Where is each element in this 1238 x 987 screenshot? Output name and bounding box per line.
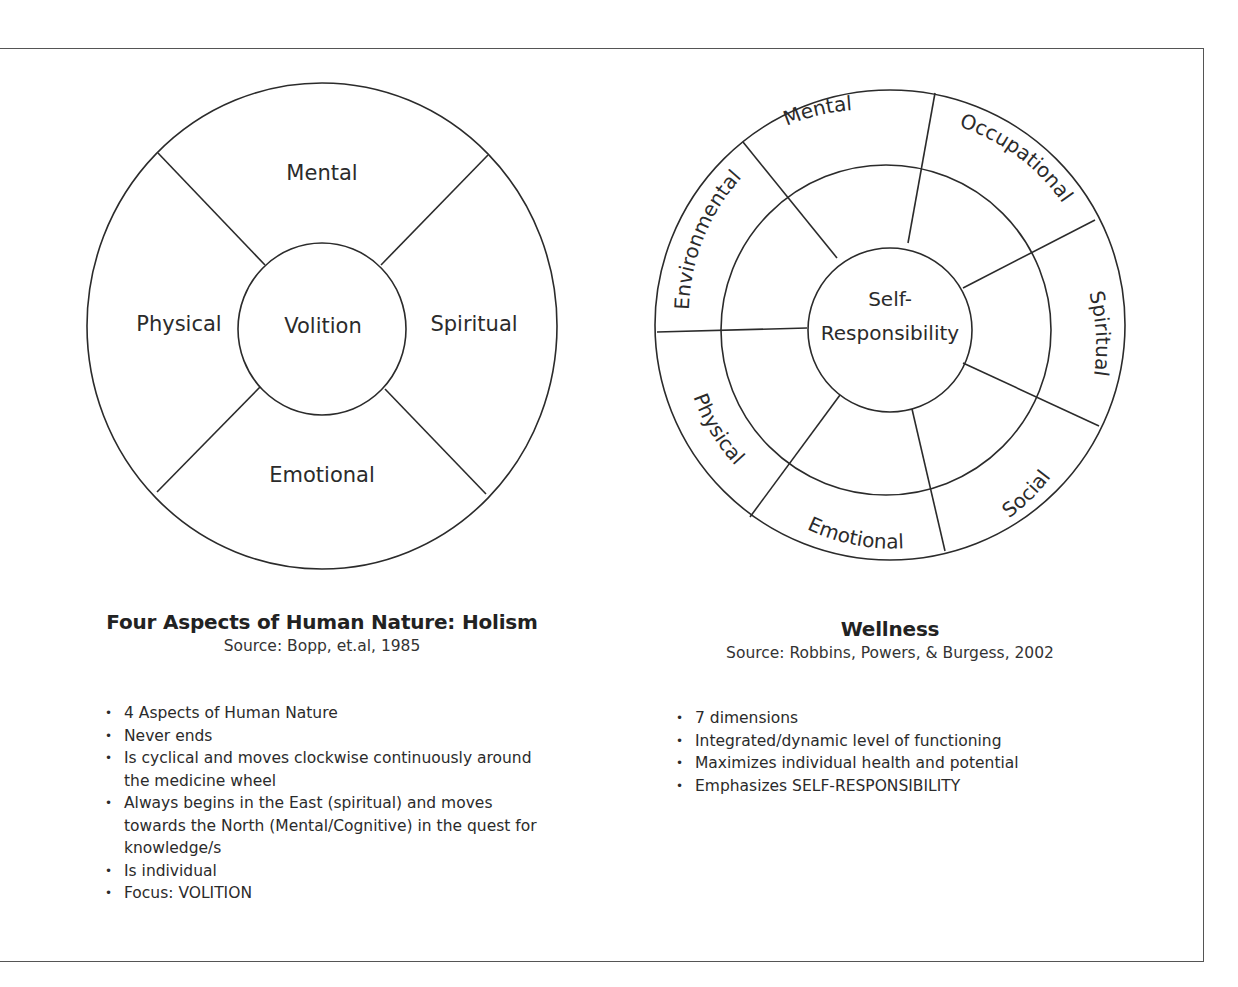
wellness-dimension-environmental: Environmental [670,165,746,310]
wellness-spoke-occupational-spiritual [963,220,1095,288]
wellness-bullet: 7 dimensions [671,707,1131,730]
holism-bullet: Is cyclical and moves clockwise continuo… [100,747,550,792]
wellness-center-line1: Self- [868,287,912,311]
holism-center-volition: Volition [284,314,361,338]
holism-bullet: Always begins in the East (spiritual) an… [100,792,550,860]
wellness-spoke-physical-environmental [657,328,807,332]
wellness-bullet-list: 7 dimensions Integrated/dynamic level of… [671,707,1131,797]
wellness-bullet: Integrated/dynamic level of functioning [671,730,1131,753]
wellness-dimension-physical: Physical [689,390,750,469]
holism-bullet: Never ends [100,725,550,748]
holism-segment-emotional: Emotional [269,463,375,487]
holism-spoke-se [385,389,486,494]
wellness-source: Source: Robbins, Powers, & Burgess, 2002 [640,644,1140,662]
holism-segment-spiritual: Spiritual [430,312,517,336]
holism-segment-physical: Physical [136,312,221,336]
wellness-caption: Wellness Source: Robbins, Powers, & Burg… [640,617,1140,662]
wellness-spoke-social-emotional [912,409,945,551]
holism-spoke-sw [157,387,260,492]
holism-title: Four Aspects of Human Nature: Holism [72,610,572,634]
holism-segment-mental: Mental [286,161,357,185]
wellness-center-line2: Responsibility [821,321,960,345]
wellness-spoke-emotional-physical [750,395,840,517]
wellness-bullet: Maximizes individual health and potentia… [671,752,1131,775]
wellness-dimension-emotional: Emotional [804,512,904,554]
wellness-dimension-mental: Mental [780,91,853,130]
wellness-spoke-spiritual-social [963,363,1099,426]
holism-source: Source: Bopp, et.al, 1985 [72,637,572,655]
holism-bullet: 4 Aspects of Human Nature [100,702,550,725]
holism-spoke-ne [381,155,488,265]
wellness-title: Wellness [640,617,1140,641]
wellness-spoke-mental-occupational [908,93,935,243]
holism-bullet-list: 4 Aspects of Human Nature Never ends Is … [100,702,550,905]
wellness-dimension-spiritual: Spiritual [1084,288,1115,377]
wellness-dimension-social: Social [997,465,1055,522]
holism-bullet: Focus: VOLITION [100,882,550,905]
wellness-spoke-mental-environmental [743,142,837,258]
wellness-bullet: Emphasizes SELF-RESPONSIBILITY [671,775,1131,798]
holism-bullet: Is individual [100,860,550,883]
holism-caption: Four Aspects of Human Nature: Holism Sou… [72,610,572,655]
holism-spoke-nw [158,153,265,265]
